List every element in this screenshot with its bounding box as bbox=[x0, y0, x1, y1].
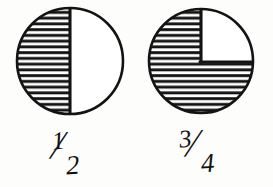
half-circle-unshaded-region bbox=[70, 8, 123, 114]
fraction-denominator: 2 bbox=[65, 152, 80, 180]
half-circle-group bbox=[10, 2, 140, 122]
fraction-label-one-half: 1 ⁄ 2 bbox=[46, 126, 100, 184]
fraction-label-three-quarters: 3 ⁄ 4 bbox=[177, 122, 235, 184]
fraction-denominator: 4 bbox=[200, 150, 215, 178]
fraction-slash: ⁄ bbox=[55, 124, 62, 166]
three-quarters-circle-group bbox=[140, 2, 270, 122]
fraction-slash: ⁄ bbox=[190, 122, 197, 164]
fraction-figure: 1 ⁄ 2 3 ⁄ 4 bbox=[0, 0, 273, 187]
